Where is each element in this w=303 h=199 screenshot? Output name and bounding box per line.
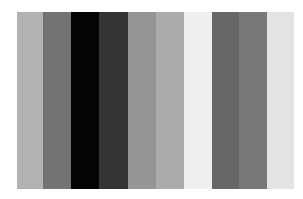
gray-bar-4 bbox=[99, 12, 128, 189]
gray-bar-6 bbox=[156, 12, 184, 189]
gray-bar-5 bbox=[128, 12, 156, 189]
gray-bar-1 bbox=[17, 12, 43, 189]
gray-bar-9 bbox=[239, 12, 267, 189]
grayscale-bar-pattern bbox=[17, 12, 294, 189]
gray-bar-7 bbox=[184, 12, 212, 189]
gray-bar-8 bbox=[212, 12, 239, 189]
gray-bar-10 bbox=[267, 12, 294, 189]
gray-bar-3 bbox=[71, 12, 99, 189]
gray-bar-2 bbox=[43, 12, 71, 189]
